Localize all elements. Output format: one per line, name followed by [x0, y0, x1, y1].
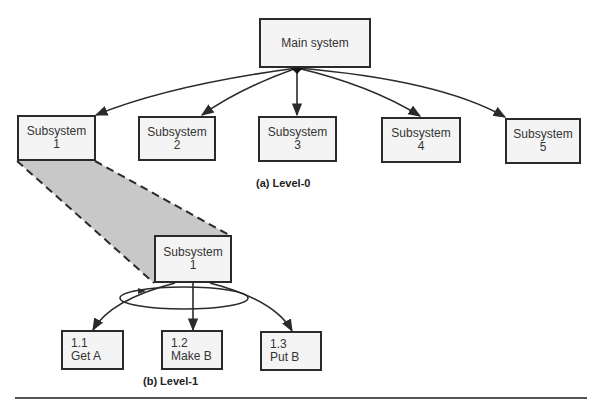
box-number: 1 [190, 259, 197, 272]
process-1-3-box: 1.3 Put B [260, 331, 322, 371]
box-number: 1 [53, 138, 60, 151]
subsystem-3-box: Subsystem 3 [258, 116, 337, 162]
level1-subsystem-1-box: Subsystem 1 [154, 235, 232, 283]
subsystem-2-box: Subsystem 2 [138, 116, 216, 161]
process-label: Get A [71, 350, 101, 363]
subsystem-5-box: Subsystem 5 [505, 118, 581, 164]
bottom-rule [15, 397, 587, 399]
main-system-box: Main system [259, 18, 371, 68]
box-label: Subsystem [147, 126, 206, 139]
process-label: Put B [270, 351, 299, 364]
process-label: Make B [171, 350, 212, 363]
process-1-2-box: 1.2 Make B [161, 330, 223, 370]
box-number: 2 [174, 139, 181, 152]
subsystem-1-box: Subsystem 1 [17, 115, 96, 161]
level-1-caption: (b) Level-1 [143, 375, 198, 387]
subsystem-4-box: Subsystem 4 [381, 117, 461, 163]
box-number: 4 [418, 140, 425, 153]
main-system-label: Main system [281, 37, 348, 50]
box-number: 3 [294, 139, 301, 152]
level-0-caption: (a) Level-0 [256, 177, 310, 189]
process-1-1-box: 1.1 Get A [61, 330, 124, 370]
box-number: 5 [540, 141, 547, 154]
